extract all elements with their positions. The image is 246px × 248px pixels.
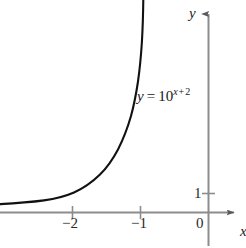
equation-exponent-variable: x [173, 86, 177, 97]
equation-equals: = [144, 88, 158, 104]
equation-lhs: y [137, 88, 144, 104]
x-tick-label-neg1: −1 [131, 216, 147, 231]
exponential-curve [0, 0, 143, 204]
y-axis-label: y [189, 6, 196, 21]
equation-base: 10 [158, 88, 173, 104]
exponential-function-figure: y=10x+2 −2 −1 1 0 y x [0, 0, 246, 248]
origin-label: 0 [196, 216, 204, 231]
x-axis-label: x [240, 224, 246, 239]
curve-equation-label: y=10x+2 [137, 86, 190, 105]
x-tick-label-neg2: −2 [62, 216, 78, 231]
graph-canvas [0, 0, 246, 248]
equation-exponent-constant: 2 [185, 86, 190, 97]
y-tick-label-1: 1 [194, 186, 202, 201]
equation-exponent: x+2 [173, 86, 190, 97]
